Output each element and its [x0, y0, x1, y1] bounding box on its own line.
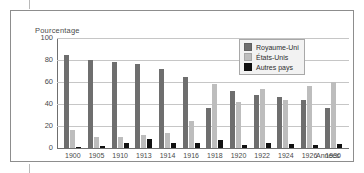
bar	[307, 86, 312, 148]
bar	[147, 139, 152, 148]
bar-group	[203, 38, 227, 148]
bar	[135, 64, 140, 148]
legend-label-us: États-Unis	[256, 54, 288, 61]
bar	[325, 108, 330, 148]
x-axis-title: Années	[316, 152, 340, 159]
bar	[124, 143, 129, 149]
bar	[337, 144, 342, 148]
y-tick-label-40: 40	[45, 100, 53, 108]
x-tick-label-1926: 1926	[302, 152, 318, 159]
bar	[260, 89, 265, 148]
bar	[212, 84, 217, 148]
bar-group	[108, 38, 132, 148]
x-tick-label-1914: 1914	[160, 152, 176, 159]
bar	[76, 147, 81, 148]
bar	[118, 137, 123, 148]
bar	[313, 145, 318, 148]
bar	[141, 135, 146, 148]
bar-group	[156, 38, 180, 148]
legend-label-uk: Royaume-Uni	[256, 44, 299, 51]
bar	[266, 143, 271, 149]
bar	[171, 143, 176, 149]
bar-group	[132, 38, 156, 148]
bar	[254, 95, 259, 148]
x-tick-label-1920: 1920	[231, 152, 247, 159]
bar	[159, 69, 164, 148]
legend-swatch-uk	[244, 43, 252, 51]
bar	[218, 140, 223, 148]
bar-groups	[57, 38, 349, 148]
x-tick-label-1918: 1918	[207, 152, 223, 159]
chart-frame: Pourcentage 020406080100 190019051910191…	[10, 10, 354, 162]
bar-group	[321, 38, 345, 148]
legend-swatch-us	[244, 53, 252, 61]
bar	[189, 121, 194, 149]
registration-mark-top	[29, 0, 30, 9]
gridline-0	[57, 148, 349, 149]
x-tick-label-1910: 1910	[112, 152, 128, 159]
y-tick-label-80: 80	[45, 56, 53, 64]
bar	[206, 108, 211, 148]
legend-item-uk: Royaume-Uni	[244, 43, 299, 51]
bar-group	[61, 38, 85, 148]
bar	[94, 137, 99, 148]
bar	[112, 62, 117, 148]
bar	[195, 143, 200, 149]
plot-area: 020406080100 190019051910191319141916191…	[57, 38, 349, 148]
bar	[88, 60, 93, 148]
bar	[183, 77, 188, 149]
bar	[64, 55, 69, 149]
bar	[100, 146, 105, 148]
bar	[242, 145, 247, 148]
chart-screenshot: Pourcentage 020406080100 190019051910191…	[0, 0, 364, 173]
legend-label-other: Autres pays	[256, 64, 293, 71]
bar	[70, 130, 75, 148]
bar	[236, 102, 241, 148]
bar	[230, 91, 235, 148]
y-tick-label-20: 20	[45, 122, 53, 130]
x-tick-label-1913: 1913	[136, 152, 152, 159]
bar-group	[85, 38, 109, 148]
y-tick-label-0: 0	[49, 144, 53, 152]
bar-group	[179, 38, 203, 148]
x-tick-label-1905: 1905	[89, 152, 105, 159]
legend-item-other: Autres pays	[244, 63, 299, 71]
x-tick-label-1922: 1922	[254, 152, 270, 159]
bar	[301, 100, 306, 148]
x-tick-label-1900: 1900	[65, 152, 81, 159]
y-tick-label-60: 60	[45, 78, 53, 86]
chart-legend: Royaume-UniÉtats-UnisAutres pays	[239, 39, 305, 75]
legend-swatch-other	[244, 63, 252, 71]
x-tick-label-1924: 1924	[278, 152, 294, 159]
bar	[283, 100, 288, 148]
x-tick-label-1916: 1916	[183, 152, 199, 159]
bar	[277, 97, 282, 148]
bar	[331, 82, 336, 148]
legend-item-us: États-Unis	[244, 53, 299, 61]
registration-mark-bottom	[29, 164, 30, 173]
bar	[165, 133, 170, 148]
bar	[289, 144, 294, 148]
y-tick-label-100: 100	[40, 34, 53, 42]
